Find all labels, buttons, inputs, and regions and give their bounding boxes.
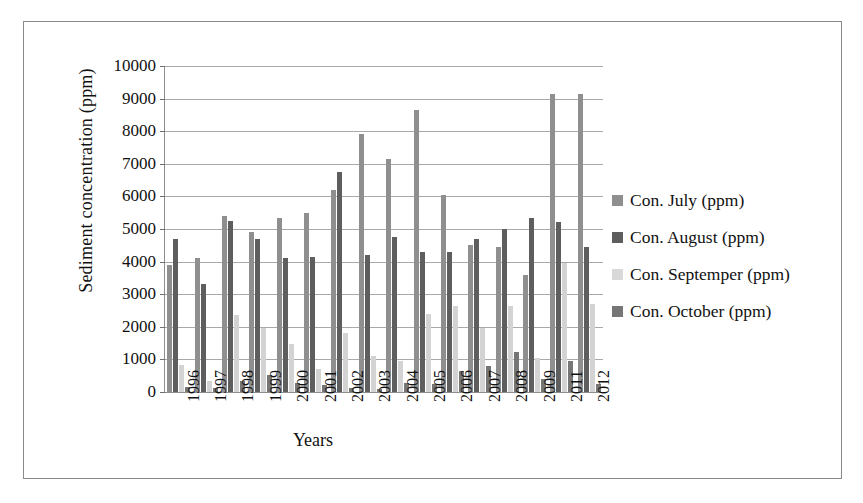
x-axis-tick-label: 2007 [487, 370, 503, 402]
y-axis-tick [160, 131, 165, 132]
bar [508, 306, 513, 392]
bar-group-2000 [277, 66, 300, 392]
y-axis-tick-label: 3000 [122, 285, 156, 302]
y-axis-tick-label: 2000 [122, 318, 156, 335]
bar-group-2008 [496, 66, 519, 392]
x-axis-tick-label: 2012 [596, 370, 612, 402]
bar-group-1999 [249, 66, 272, 392]
screenshot-root: Sediment concentration (ppm) Years 10000… [0, 0, 863, 503]
chart-legend: Con. July (ppm)Con. August (ppm)Con. Sep… [612, 182, 837, 330]
bar [277, 218, 282, 392]
y-axis-tick [160, 359, 165, 360]
bar [578, 94, 583, 392]
bar [529, 218, 534, 392]
bar [167, 265, 172, 392]
bar [480, 328, 485, 392]
bar [359, 134, 364, 392]
bar [255, 239, 260, 392]
legend-item[interactable]: Con. October (ppm) [612, 293, 837, 330]
bar [207, 381, 212, 392]
x-axis-tick-label: 2008 [514, 370, 530, 402]
bar [426, 314, 431, 392]
bar-group-1997 [195, 66, 218, 392]
bar-group-2011 [550, 66, 573, 392]
y-axis-tick [160, 66, 165, 67]
legend-item[interactable]: Con. July (ppm) [612, 182, 837, 219]
y-axis-tick-label: 5000 [122, 220, 156, 237]
x-axis-tick-label: 1996 [186, 370, 202, 402]
bar [249, 232, 254, 392]
y-axis-tick [160, 327, 165, 328]
bar-group-2002 [331, 66, 354, 392]
y-axis-tick-label: 6000 [122, 188, 156, 205]
y-axis-tick [160, 99, 165, 100]
legend-swatch-icon [612, 269, 623, 280]
x-axis-tick-label: 2004 [405, 370, 421, 402]
y-axis-tick-label: 4000 [122, 253, 156, 270]
legend-item-label: Con. July (ppm) [630, 190, 744, 211]
bar-group-2007 [468, 66, 491, 392]
bar [337, 172, 342, 392]
y-axis-title: Sediment concentration (ppm) [76, 31, 97, 331]
y-axis-tick [160, 294, 165, 295]
bar [304, 213, 309, 392]
bar [173, 239, 178, 392]
x-axis-tick-label: 1999 [268, 370, 284, 402]
x-axis-tick-label: 2005 [432, 370, 448, 402]
x-axis-tick-label: 2001 [323, 370, 339, 402]
bar [550, 94, 555, 392]
bar [392, 237, 397, 392]
bar [441, 195, 446, 392]
y-axis-tick [160, 196, 165, 197]
bar [261, 328, 266, 392]
bar-group-1996 [167, 66, 190, 392]
x-axis-tick-label: 2009 [542, 370, 558, 402]
legend-item[interactable]: Con. Septemper (ppm) [612, 256, 837, 293]
bar-group-2004 [386, 66, 409, 392]
bar [474, 239, 479, 392]
legend-item[interactable]: Con. August (ppm) [612, 219, 837, 256]
legend-item-label: Con. August (ppm) [630, 227, 765, 248]
x-axis-tick-label: 2011 [569, 371, 585, 402]
legend-item-label: Con. October (ppm) [630, 301, 771, 322]
bar [289, 344, 294, 392]
bar-group-2005 [414, 66, 437, 392]
bar [398, 361, 403, 392]
bar [535, 358, 540, 392]
y-axis-tick-label: 1000 [122, 351, 156, 368]
y-axis-tick [160, 229, 165, 230]
y-axis-tick-label: 10000 [114, 57, 157, 74]
figure-frame: Sediment concentration (ppm) Years 10000… [23, 21, 842, 479]
x-axis-tick-label: 2002 [350, 370, 366, 402]
x-axis-tick-label: 1998 [240, 370, 256, 402]
x-axis-tick-label: 1997 [213, 370, 229, 402]
legend-swatch-icon [612, 306, 623, 317]
y-axis-tick-label: 0 [148, 383, 157, 400]
bar [556, 222, 561, 392]
x-axis-tick-label: 2006 [459, 370, 475, 402]
bar-group-2009 [523, 66, 546, 392]
y-axis-tick [160, 262, 165, 263]
bar [562, 263, 567, 392]
bar [228, 221, 233, 392]
y-axis-tick-label: 9000 [122, 90, 156, 107]
y-axis-tick-label: 7000 [122, 155, 156, 172]
y-axis-tick [160, 392, 165, 393]
bar-group-2003 [359, 66, 382, 392]
bar [316, 369, 321, 392]
bar [343, 333, 348, 392]
bar [222, 216, 227, 392]
legend-item-label: Con. Septemper (ppm) [630, 264, 790, 285]
bar [179, 365, 184, 392]
bar-group-2012 [578, 66, 601, 392]
bar [386, 159, 391, 392]
y-axis-tick [160, 164, 165, 165]
x-axis-title: Years [24, 430, 602, 451]
x-axis-tick-label: 2000 [295, 370, 311, 402]
bar [414, 110, 419, 392]
x-axis-tick-label: 2003 [377, 370, 393, 402]
bar-group-1998 [222, 66, 245, 392]
legend-swatch-icon [612, 195, 623, 206]
bar-group-2001 [304, 66, 327, 392]
y-axis-tick-label: 8000 [122, 122, 156, 139]
